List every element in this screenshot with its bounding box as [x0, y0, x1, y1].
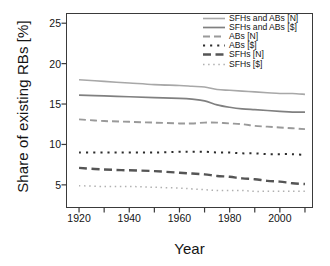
legend-label: SFHs [$] [225, 60, 262, 69]
figure-container: 510152025 19201940196019802000 Share of … [0, 0, 330, 266]
data-series-line [79, 119, 305, 129]
legend-item: SFHs and ABs [$] [203, 23, 315, 32]
y-tick-label: 5 [37, 179, 61, 191]
y-tick-label: 20 [37, 58, 61, 70]
y-tick-label: 15 [37, 98, 61, 110]
legend-item: ABs [N] [203, 32, 315, 41]
x-tick-label: 1960 [159, 212, 199, 224]
legend-line-swatch [203, 60, 225, 69]
legend-item: SFHs [$] [203, 59, 315, 68]
data-series-group [79, 80, 305, 192]
y-axis-ticks: 510152025 [36, 0, 61, 266]
x-tick-label: 1940 [109, 212, 149, 224]
data-series-line [79, 186, 305, 192]
legend-line-swatch [203, 23, 225, 32]
data-series-line [79, 152, 305, 155]
x-tick-label: 1920 [59, 212, 99, 224]
legend-line-swatch [203, 50, 225, 59]
chart-legend: SFHs and ABs [N]SFHs and ABs [$]ABs [N]A… [203, 14, 315, 69]
y-tick-label: 10 [37, 138, 61, 150]
legend-line-swatch [203, 32, 225, 41]
legend-line-swatch [203, 14, 225, 23]
data-series-line [79, 168, 305, 184]
data-series-line [79, 80, 305, 95]
y-tick-label: 25 [37, 17, 61, 29]
data-series-line [79, 95, 305, 112]
x-axis-title: Year [66, 240, 313, 257]
legend-line-swatch [203, 41, 225, 50]
x-tick-label: 1980 [210, 212, 250, 224]
y-axis-title: Share of existing RBs [%] [14, 7, 31, 207]
x-tick-label: 2000 [260, 212, 300, 224]
